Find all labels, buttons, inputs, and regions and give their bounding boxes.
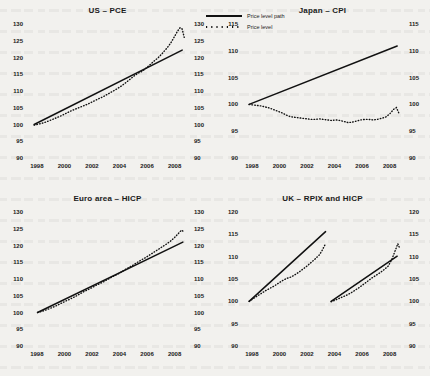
series-price-level-path-hicp [331,256,397,301]
x-tick-label: 1998 [245,163,258,169]
y-tick-label: 105 [406,276,419,282]
y-tick-label: 90 [231,155,241,161]
y-tick-label: 120 [13,55,26,61]
x-tick-label: 2006 [355,351,368,357]
panel-uk-rpix-hicp: UK – RPIX and HICP 909095951001001051051… [215,188,430,376]
series-price-level [38,230,185,312]
y-tick-label: 105 [228,75,241,81]
plot-area-us-pce: 9090959510010010510511011011511512012012… [0,0,215,188]
y-tick-label: 110 [191,276,204,282]
x-tick-label: 2002 [85,163,98,169]
legend-swatch-dotted [206,23,242,31]
series-price-level-path-rpix [249,232,325,302]
y-tick-label: 95 [191,326,201,332]
chart-grid: US – PCE 9090959510010010510511011011511… [0,0,430,376]
y-tick-label: 100 [228,101,241,107]
y-tick-label: 95 [231,128,241,134]
plot-area-euro-area-hicp: 9090959510010010510511011011511512012012… [0,188,215,376]
y-tick-label: 90 [406,343,416,349]
series-price-level-hicp [331,244,400,302]
panel-us-pce: US – PCE 9090959510010010510511011011511… [0,0,215,188]
x-tick-label: 2000 [58,163,71,169]
x-tick-label: 1998 [30,351,43,357]
x-tick-label: 2002 [300,163,313,169]
y-tick-label: 100 [191,122,204,128]
y-tick-label: 110 [191,88,204,94]
legend-item-price-level-path: Price level path [206,10,316,21]
x-tick-label: 2004 [328,351,341,357]
y-tick-label: 115 [13,259,26,265]
x-tick-label: 1998 [30,163,43,169]
chart-svg-3 [215,188,430,376]
y-tick-label: 90 [231,343,241,349]
legend-label-price-level: Price level [247,24,272,30]
y-tick-label: 110 [406,48,419,54]
x-tick-label: 2004 [113,163,126,169]
legend: Price level path Price level [206,10,316,32]
y-tick-label: 100 [406,298,419,304]
y-tick-label: 115 [228,231,241,237]
legend-swatch-solid [206,12,242,20]
y-tick-label: 95 [406,321,416,327]
y-tick-label: 100 [191,310,204,316]
x-tick-label: 2000 [273,351,286,357]
x-tick-label: 2000 [58,351,71,357]
y-tick-label: 120 [191,243,204,249]
legend-label-price-level-path: Price level path [247,13,285,19]
chart-svg-0 [0,0,215,188]
y-tick-label: 130 [191,21,204,27]
y-tick-label: 110 [228,254,241,260]
chart-svg-2 [0,188,215,376]
x-tick-label: 2008 [168,351,181,357]
y-tick-label: 120 [228,209,241,215]
y-tick-label: 90 [16,343,26,349]
x-tick-label: 2004 [328,163,341,169]
series-price-level [249,104,399,122]
x-tick-label: 2008 [168,163,181,169]
y-tick-label: 105 [191,293,204,299]
y-tick-label: 95 [16,326,26,332]
y-tick-label: 130 [191,209,204,215]
y-tick-label: 110 [13,88,26,94]
y-tick-label: 95 [16,138,26,144]
x-tick-label: 2008 [383,163,396,169]
y-tick-label: 105 [228,276,241,282]
y-tick-label: 120 [13,243,26,249]
y-tick-label: 90 [191,155,201,161]
y-tick-label: 100 [406,101,419,107]
x-tick-label: 2002 [85,351,98,357]
y-tick-label: 110 [13,276,26,282]
series-price-level-path [249,46,397,104]
y-tick-label: 130 [13,21,26,27]
y-tick-label: 110 [406,254,419,260]
x-tick-label: 2006 [140,163,153,169]
y-tick-label: 115 [406,231,419,237]
y-tick-label: 115 [191,259,204,265]
y-tick-label: 115 [13,71,26,77]
x-tick-label: 2008 [383,351,396,357]
plot-area-uk-rpix-hicp: 9090959510010010510511011011511512012019… [215,188,430,376]
x-tick-label: 2004 [113,351,126,357]
y-tick-label: 90 [16,155,26,161]
y-tick-label: 125 [191,226,204,232]
y-tick-label: 130 [13,209,26,215]
x-tick-label: 1998 [245,351,258,357]
y-tick-label: 125 [13,38,26,44]
x-tick-label: 2006 [355,163,368,169]
y-tick-label: 120 [406,209,419,215]
legend-item-price-level: Price level [206,21,316,32]
y-tick-label: 90 [406,155,416,161]
y-tick-label: 100 [13,122,26,128]
y-tick-label: 90 [191,343,201,349]
x-tick-label: 2002 [300,351,313,357]
y-tick-label: 105 [406,75,419,81]
y-tick-label: 115 [406,21,419,27]
y-tick-label: 105 [13,293,26,299]
series-price-level-path [34,50,182,124]
y-tick-label: 95 [406,128,416,134]
y-tick-label: 120 [191,55,204,61]
y-tick-label: 95 [231,321,241,327]
y-tick-label: 125 [13,226,26,232]
y-tick-label: 110 [228,48,241,54]
y-tick-label: 115 [191,71,204,77]
